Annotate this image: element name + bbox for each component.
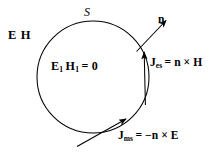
surface-label: S [84, 6, 90, 18]
exterior-field-h-text: H [21, 28, 31, 42]
interior-field-e-text: E [51, 59, 59, 73]
exterior-fields-label: EH [8, 29, 31, 42]
interior-field-e-subscript: 1 [59, 65, 63, 74]
figure-canvas: S EH E1 H1 = 0 n Jes = n × H Jms = −n × … [0, 0, 214, 154]
surface-label-text: S [84, 5, 90, 19]
exterior-field-e-text: E [8, 28, 17, 42]
interior-field-h-subscript: 1 [75, 65, 79, 74]
electric-current-subscript: es [156, 61, 162, 70]
electric-current-symbol-text: J [150, 56, 156, 68]
interior-equals-zero-text: = 0 [81, 59, 97, 73]
magnetic-current-label: Jms = −n × E [118, 130, 179, 142]
normal-vector-label: n [158, 14, 164, 26]
magnetic-current-rhs-text: = −n × E [135, 129, 178, 141]
interior-field-h-text: H [66, 59, 76, 73]
surface-circle [37, 21, 149, 133]
electric-current-label: Jes = n × H [150, 57, 202, 69]
electric-current-arrow [144, 52, 145, 105]
electric-current-rhs-text: = n × H [165, 56, 203, 68]
interior-fields-label: E1 H1 = 0 [51, 60, 98, 72]
magnetic-current-subscript: ms [124, 134, 133, 143]
diagram-vector-art [0, 0, 214, 154]
magnetic-current-symbol-text: J [118, 129, 124, 141]
